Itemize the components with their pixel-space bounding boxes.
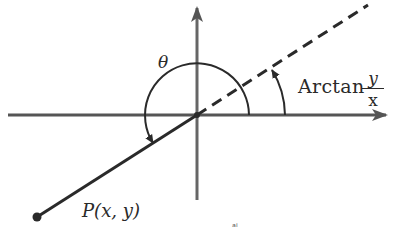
origin-dot: [194, 112, 200, 118]
point-p-label: P(x, y): [82, 200, 140, 221]
fraction-denominator: x: [362, 89, 384, 111]
coordinate-diagram: [0, 0, 400, 234]
arctan-arc: [272, 70, 285, 115]
y-over-x-fraction: y x: [362, 68, 384, 111]
stray-mark: ᵃⁱ: [232, 222, 238, 233]
fraction-numerator: y: [362, 68, 384, 89]
theta-label: θ: [158, 52, 168, 72]
point-p-dot: [33, 213, 42, 222]
arctan-label: Arctan: [298, 75, 364, 97]
